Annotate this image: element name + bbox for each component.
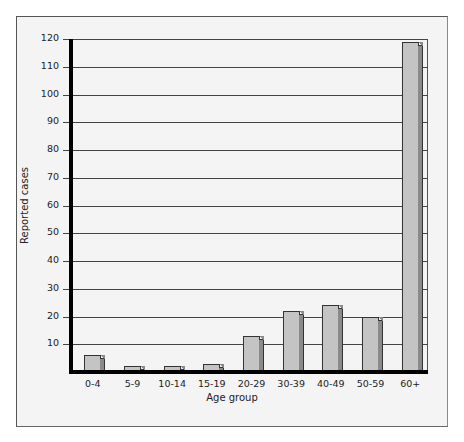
y-tick-label: 110 (29, 60, 59, 71)
gridline (71, 178, 428, 179)
x-axis (69, 370, 428, 374)
y-tick-label: 80 (29, 143, 59, 154)
gridline (71, 39, 428, 40)
y-axis-title: Reported cases (19, 156, 30, 256)
bar-40-49 (322, 305, 343, 372)
y-tick-label: 40 (29, 254, 59, 265)
gridline (71, 261, 428, 262)
x-tick-label: 60+ (390, 378, 430, 389)
bar-20-29 (243, 336, 264, 372)
x-tick-label: 0-4 (73, 378, 113, 389)
y-tick-label: 10 (29, 337, 59, 348)
y-tick-label: 20 (29, 310, 59, 321)
gridline (71, 122, 428, 123)
x-tick-label: 40-49 (311, 378, 351, 389)
y-tick-label: 30 (29, 282, 59, 293)
y-tick-label: 90 (29, 115, 59, 126)
x-axis-title: Age group (0, 392, 464, 403)
x-tick-label: 15-19 (192, 378, 232, 389)
gridline (71, 206, 428, 207)
bar-60+ (402, 42, 423, 372)
y-tick-label: 70 (29, 171, 59, 182)
y-tick-label: 120 (29, 32, 59, 43)
y-axis (69, 39, 73, 374)
plot-area (71, 39, 428, 372)
x-tick-label: 5-9 (113, 378, 153, 389)
x-tick-label: 30-39 (271, 378, 311, 389)
bar-30-39 (283, 311, 304, 372)
y-tick-label: 50 (29, 226, 59, 237)
y-tick-label: 100 (29, 88, 59, 99)
gridline (71, 67, 428, 68)
x-tick-label: 50-59 (351, 378, 391, 389)
gridline (71, 95, 428, 96)
y-tick-label: 60 (29, 199, 59, 210)
bar-50-59 (362, 317, 383, 373)
gridline (71, 289, 428, 290)
x-tick-label: 20-29 (232, 378, 272, 389)
gridline (71, 233, 428, 234)
gridline (71, 150, 428, 151)
x-tick-label: 10-14 (152, 378, 192, 389)
